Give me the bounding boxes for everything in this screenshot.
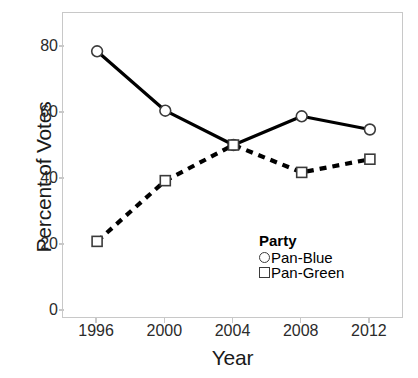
x-tick-label: 2004 [198,322,268,340]
series-line-pan-green [97,145,370,241]
y-tick-label: 60 [12,103,58,121]
data-point-pan-blue [365,124,376,135]
legend: Party Pan-Blue Pan-Green [259,233,371,280]
y-tick-mark [59,111,64,112]
data-point-pan-green [92,236,102,246]
x-axis-title: Year [62,346,403,370]
y-tick-mark [59,177,64,178]
y-tick-label: 0 [12,301,58,319]
x-tick-mark [164,318,165,323]
data-point-pan-blue [296,111,307,122]
y-axis-tick-labels: 020406080 [0,0,58,378]
y-tick-mark [59,309,64,310]
data-point-pan-green [160,176,170,186]
y-tick-mark [59,243,64,244]
y-tick-label: 20 [12,235,58,253]
legend-item-pan-blue[interactable]: Pan-Blue [259,250,371,265]
data-point-pan-blue [92,46,103,57]
data-point-pan-blue [160,105,171,116]
legend-label-pan-green: Pan-Green [271,265,344,280]
legend-item-pan-green[interactable]: Pan-Green [259,265,371,280]
data-point-pan-green [229,140,239,150]
y-tick-label: 40 [12,169,58,187]
legend-label-pan-blue: Pan-Blue [271,250,333,265]
x-tick-mark [300,318,301,323]
data-point-pan-green [297,167,307,177]
square-marker-icon [259,267,270,278]
x-tick-mark [95,318,96,323]
y-tick-label: 80 [12,37,58,55]
data-point-pan-green [365,154,375,164]
x-tick-label: 1996 [61,322,131,340]
x-tick-label: 2012 [334,322,404,340]
x-tick-mark [368,318,369,323]
series-line-pan-blue [97,51,370,145]
circle-marker-icon [259,252,270,263]
y-tick-mark [59,45,64,46]
chart-figure: Percent of Votes 020406080 1996200020042… [0,0,418,378]
legend-title: Party [259,233,371,249]
x-tick-label: 2008 [266,322,336,340]
x-tick-mark [232,318,233,323]
x-tick-label: 2000 [129,322,199,340]
